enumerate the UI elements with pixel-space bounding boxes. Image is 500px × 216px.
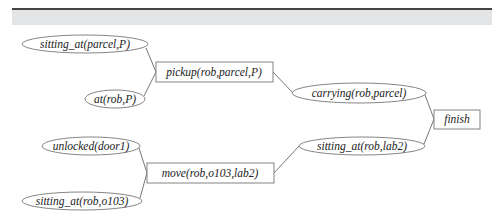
node-label: unlocked(door1) bbox=[53, 140, 130, 153]
node-label: sitting_at(parcel,P) bbox=[40, 38, 130, 51]
node-label: move(rob,o103,lab2) bbox=[162, 167, 259, 180]
edge-move-to-sitting-lab2 bbox=[274, 145, 300, 173]
edge-pickup-to-carrying bbox=[273, 72, 293, 93]
node-label: at(rob,P) bbox=[94, 93, 136, 106]
node-label: pickup(rob,parcel,P) bbox=[165, 66, 262, 79]
node-label: carrying(rob,parcel) bbox=[312, 87, 407, 100]
node-label: finish bbox=[444, 113, 470, 126]
edge-sitting-o103-to-move bbox=[140, 173, 147, 198]
node-carrying: carrying(rob,parcel) bbox=[292, 83, 426, 103]
node-sitting-at-parcel: sitting_at(parcel,P) bbox=[22, 35, 148, 53]
node-sitting-at-o103: sitting_at(rob,o103) bbox=[22, 192, 142, 210]
node-at-rob: at(rob,P) bbox=[85, 90, 145, 108]
node-move: move(rob,o103,lab2) bbox=[147, 163, 274, 183]
node-sitting-at-lab2: sitting_at(rob,lab2) bbox=[299, 137, 425, 155]
edge-sitting-lab2-to-finish bbox=[424, 119, 434, 144]
edge-at-rob-to-pickup bbox=[144, 72, 156, 96]
node-unlocked-door1: unlocked(door1) bbox=[42, 137, 140, 155]
edge-unlocked-to-move bbox=[139, 148, 147, 173]
node-label: sitting_at(rob,o103) bbox=[36, 195, 129, 208]
edge-sitting-parcel-to-pickup bbox=[146, 48, 156, 72]
plan-diagram: sitting_at(parcel,P) at(rob,P) pickup(ro… bbox=[0, 0, 500, 216]
node-label: sitting_at(rob,lab2) bbox=[317, 140, 407, 153]
node-pickup: pickup(rob,parcel,P) bbox=[156, 62, 273, 82]
edge-carrying-to-finish bbox=[425, 95, 434, 119]
node-finish: finish bbox=[434, 110, 480, 129]
